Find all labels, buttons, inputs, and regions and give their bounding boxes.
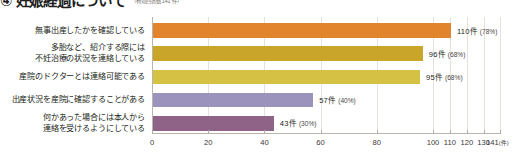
category-label-line: 多胎など、紹介する際には bbox=[35, 42, 145, 53]
gridline bbox=[500, 17, 501, 134]
x-tick-label: 60 bbox=[316, 138, 324, 148]
category-label: 何かあった場合には本人から連絡を受けるようにしている bbox=[43, 112, 145, 134]
x-tick bbox=[152, 130, 153, 134]
x-tick-label: 120 bbox=[460, 138, 473, 148]
bar[interactable] bbox=[153, 23, 451, 38]
bar-value-label: 43件(30%) bbox=[280, 118, 317, 129]
x-tick bbox=[321, 130, 322, 134]
x-tick bbox=[467, 130, 468, 134]
chart-figure: ④ 妊娠経過について （有効回答数 141 件） 無事出産したかを確認している多… bbox=[0, 0, 522, 156]
x-tick-label: 80 bbox=[373, 138, 381, 148]
x-tick-label: 40 bbox=[260, 138, 268, 148]
bar-value-label: 95件(68%) bbox=[426, 72, 463, 83]
category-label-line: 無事出産したかを確認している bbox=[35, 25, 145, 36]
chart-header: ④ 妊娠経過について （有効回答数 141 件） bbox=[0, 0, 522, 13]
category-label: 多胎など、紹介する際には不妊治療の状況を連絡している bbox=[35, 42, 145, 64]
x-tick-label: 110 bbox=[444, 138, 456, 148]
x-tick bbox=[208, 130, 209, 134]
category-label: 無事出産したかを確認している bbox=[35, 25, 145, 36]
category-label: 産院のドクターとは連絡可能である bbox=[19, 71, 145, 82]
category-label-line: 出産状況を産院に確認することがある bbox=[12, 94, 145, 105]
x-tick-label: 141(件) bbox=[486, 138, 508, 148]
bar-value-label: 110件(78%) bbox=[457, 26, 498, 37]
bar-row: 43件(30%) bbox=[152, 112, 500, 135]
x-tick bbox=[500, 130, 501, 134]
category-label-line: 連絡を受けるようにしている bbox=[43, 123, 145, 134]
category-label-line: 何かあった場合には本人から bbox=[43, 112, 145, 123]
plot-area: 110件(78%)96件(68%)95件(68%)57件(40%)43件(30%… bbox=[152, 17, 500, 134]
bar-value-label: 96件(68%) bbox=[429, 49, 466, 60]
bar-row: 57件(40%) bbox=[152, 89, 500, 112]
category-label-line: 産院のドクターとは連絡可能である bbox=[19, 71, 145, 82]
x-tick-label: 20 bbox=[204, 138, 212, 148]
category-label-column: 無事出産したかを確認している多胎など、紹介する際には不妊治療の状況を連絡している… bbox=[0, 17, 149, 134]
x-tick bbox=[377, 130, 378, 134]
chart-title: ④ 妊娠経過について bbox=[0, 0, 125, 9]
x-tick bbox=[450, 130, 451, 134]
bar-row: 95件(68%) bbox=[152, 65, 500, 88]
bar[interactable] bbox=[153, 93, 313, 108]
bar-row: 110件(78%) bbox=[152, 19, 500, 42]
x-tick bbox=[264, 130, 265, 134]
bar[interactable] bbox=[153, 116, 274, 131]
bar-value-label: 57件(40%) bbox=[319, 95, 356, 106]
respondents-note: （有効回答数 141 件） bbox=[131, 0, 182, 5]
bar[interactable] bbox=[153, 46, 423, 61]
x-tick bbox=[433, 130, 434, 134]
bar-row: 96件(68%) bbox=[152, 42, 500, 65]
x-tick bbox=[484, 130, 485, 134]
x-tick-label: 100 bbox=[427, 138, 440, 148]
bar[interactable] bbox=[153, 70, 420, 85]
category-label-line: 不妊治療の状況を連絡している bbox=[35, 53, 145, 64]
category-label: 出産状況を産院に確認することがある bbox=[12, 94, 145, 105]
x-tick-label: 0 bbox=[150, 138, 154, 148]
